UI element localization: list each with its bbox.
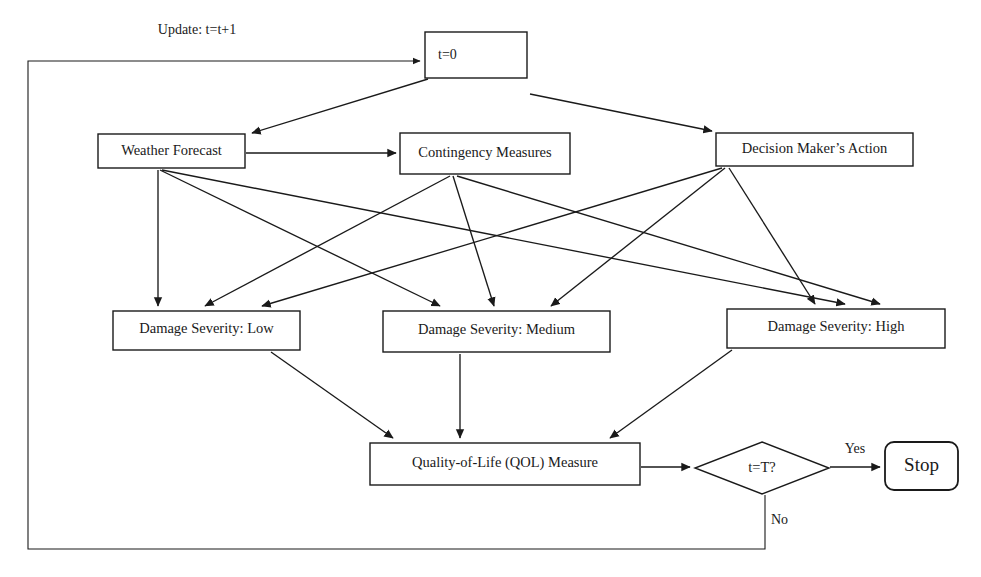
edge-label-yes: Yes <box>845 441 865 456</box>
node-stop-label: Stop <box>904 454 939 475</box>
edge-init-to-weather-forecast <box>252 79 428 133</box>
node-contingency-measures[interactable]: Contingency Measures <box>400 133 570 174</box>
node-qol-measure[interactable]: Quality-of-Life (QOL) Measure <box>370 443 640 485</box>
edge-label-update: Update: t=t+1 <box>158 22 236 37</box>
node-damage-high-label: Damage Severity: High <box>768 318 906 334</box>
edge-damage-high-to-qol <box>610 350 732 438</box>
node-weather-forecast[interactable]: Weather Forecast <box>98 134 245 168</box>
node-decision-maker-action[interactable]: Decision Maker’s Action <box>716 133 913 166</box>
edge-weather-to-damage-medium <box>160 170 440 306</box>
node-damage-low[interactable]: Damage Severity: Low <box>113 311 300 350</box>
edge-contingency-to-damage-medium <box>453 176 494 306</box>
node-stop[interactable]: Stop <box>885 442 958 490</box>
node-init-label: t=0 <box>438 47 457 62</box>
node-qol-measure-label: Quality-of-Life (QOL) Measure <box>412 454 598 471</box>
flowchart-svg: Update: t=t+1 <box>0 0 981 577</box>
node-init[interactable]: t=0 <box>425 32 527 78</box>
node-damage-medium[interactable]: Damage Severity: Medium <box>383 311 610 352</box>
node-weather-forecast-label: Weather Forecast <box>121 142 222 158</box>
node-damage-low-label: Damage Severity: Low <box>139 320 274 336</box>
edge-decision-maker-to-damage-low <box>262 168 722 306</box>
node-damage-medium-label: Damage Severity: Medium <box>418 321 576 337</box>
edge-init-to-decision-maker <box>530 94 712 131</box>
edge-damage-low-to-qol <box>271 352 393 438</box>
node-damage-high[interactable]: Damage Severity: High <box>727 309 945 348</box>
node-decision-maker-action-label: Decision Maker’s Action <box>742 140 888 156</box>
node-contingency-measures-label: Contingency Measures <box>418 144 552 160</box>
flowchart-canvas: Update: t=t+1 <box>0 0 981 577</box>
node-terminal-check[interactable]: t=T? <box>695 442 829 494</box>
node-terminal-check-label: t=T? <box>748 459 776 475</box>
edge-label-no: No <box>771 512 788 527</box>
edge-decision-maker-to-damage-medium <box>551 168 725 306</box>
